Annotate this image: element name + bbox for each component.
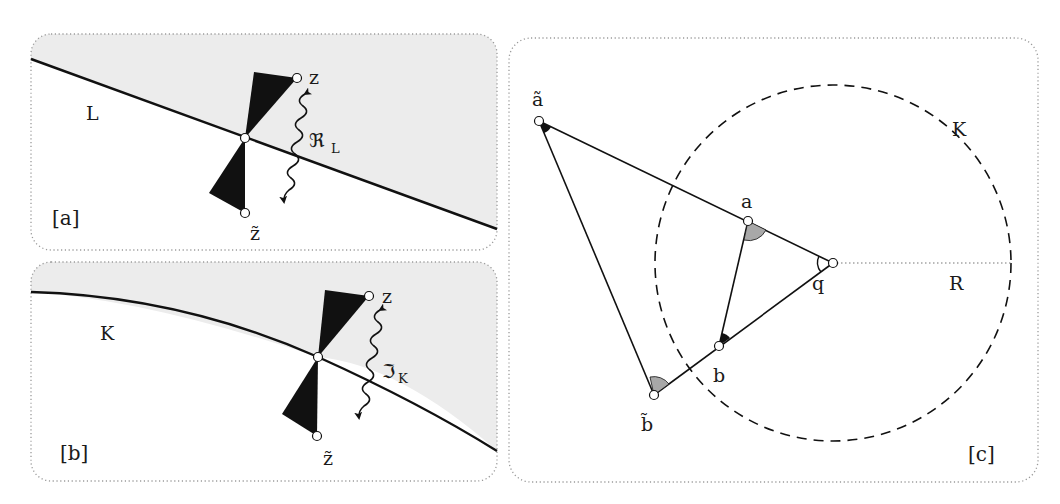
ray-q-a-tilde bbox=[539, 121, 833, 263]
label-b-tilde: b̃ bbox=[641, 413, 653, 435]
center-point bbox=[241, 134, 250, 143]
label-operator-I: ℑ bbox=[382, 360, 395, 382]
disk-exterior-shading bbox=[31, 262, 497, 451]
label-b: b bbox=[713, 364, 725, 386]
lower-wedge bbox=[282, 357, 318, 436]
label-operator-subscript: K bbox=[398, 371, 408, 386]
panel-tag-a: [a] bbox=[52, 206, 80, 230]
point-a bbox=[744, 217, 753, 226]
label-a: a bbox=[741, 190, 752, 212]
label-z-tilde: z̃ bbox=[323, 447, 333, 469]
panel-b: K z z̃ ℑ K [b] bbox=[31, 262, 497, 481]
label-K: K bbox=[952, 118, 967, 140]
point-z-tilde bbox=[241, 209, 250, 218]
segment-a-tilde-b-tilde bbox=[539, 121, 654, 395]
panel-tag-c: [c] bbox=[968, 442, 995, 466]
label-operator-R: ℜ bbox=[309, 129, 325, 151]
point-z bbox=[293, 74, 302, 83]
point-a-tilde bbox=[535, 117, 544, 126]
angle-q-arc bbox=[818, 256, 821, 272]
point-b-tilde bbox=[650, 391, 659, 400]
label-q: q bbox=[812, 272, 824, 294]
lower-wedge bbox=[209, 138, 245, 213]
label-z: z bbox=[382, 285, 392, 307]
panel-c-frame bbox=[509, 38, 1038, 482]
label-K: K bbox=[100, 322, 115, 344]
label-a-tilde: ã bbox=[532, 88, 543, 110]
point-z bbox=[365, 292, 374, 301]
panel-a: L z z̃ ℜ L [a] bbox=[31, 34, 497, 250]
center-point bbox=[314, 353, 323, 362]
label-L: L bbox=[86, 102, 99, 124]
point-q bbox=[829, 259, 838, 268]
label-operator-subscript: L bbox=[331, 141, 340, 156]
panel-tag-b: [b] bbox=[60, 441, 88, 465]
point-z-tilde bbox=[313, 432, 322, 441]
panel-c: ã b̃ a b q R K [c] bbox=[509, 38, 1038, 482]
ray-q-b-tilde bbox=[654, 263, 833, 395]
label-z: z bbox=[309, 66, 319, 88]
label-z-tilde: z̃ bbox=[250, 222, 260, 244]
half-plane-shading bbox=[31, 34, 497, 229]
label-R: R bbox=[949, 272, 964, 294]
figure-canvas: L z z̃ ℜ L [a] K z z̃ ℑ K [b] bbox=[0, 0, 1060, 504]
point-b bbox=[715, 342, 724, 351]
